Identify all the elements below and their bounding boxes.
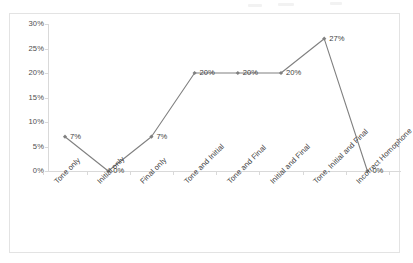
y-tick-mark (45, 171, 48, 172)
data-point-label: 7% (156, 133, 167, 141)
x-tick-mark (130, 172, 131, 175)
x-tick-mark (216, 172, 217, 175)
y-tick-mark (45, 73, 48, 74)
y-tick-mark (45, 98, 48, 99)
data-point-marker (236, 71, 240, 75)
chart-container: 0%5%10%15%20%25%30% 7%0%7%20%20%20%27%0%… (9, 13, 400, 253)
y-tick-mark (45, 147, 48, 148)
x-tick-mark (346, 172, 347, 175)
y-tick-mark (45, 24, 48, 25)
x-tick-mark (173, 172, 174, 175)
line-series (10, 14, 401, 254)
plot-area: 0%5%10%15%20%25%30% 7%0%7%20%20%20%27%0%… (10, 14, 401, 254)
x-tick-mark (259, 172, 260, 175)
x-tick-mark (303, 172, 304, 175)
data-point-label: 20% (243, 69, 258, 77)
data-point-label: 20% (200, 69, 215, 77)
x-tick-mark (389, 172, 390, 175)
x-tick-mark (87, 172, 88, 175)
data-point-label: 7% (70, 133, 81, 141)
data-point-label: 20% (286, 69, 301, 77)
y-tick-mark (45, 122, 48, 123)
x-tick-mark (43, 172, 44, 175)
data-point-label: 27% (329, 35, 344, 43)
scan-artifacts (0, 0, 413, 12)
y-tick-mark (45, 49, 48, 50)
